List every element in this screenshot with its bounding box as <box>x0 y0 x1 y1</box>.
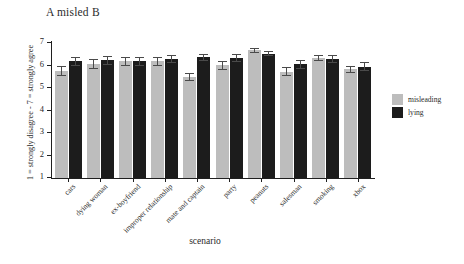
error-bar-cap <box>153 65 162 66</box>
bar-lying <box>230 58 243 178</box>
error-bar <box>189 73 190 81</box>
y-axis-tick-label: 1 <box>40 171 44 182</box>
error-bar <box>171 55 172 63</box>
error-bar-cap <box>264 51 273 52</box>
x-axis-tick <box>261 178 262 182</box>
error-bar-cap <box>346 66 355 67</box>
error-bar-cap <box>103 56 112 57</box>
legend-label-lying: lying <box>408 108 424 117</box>
error-bar-cap <box>135 57 144 58</box>
error-bar-cap <box>250 48 259 49</box>
error-bar-cap <box>153 57 162 58</box>
y-axis-tick: 1 <box>47 177 52 178</box>
error-bar-cap <box>282 67 291 68</box>
y-axis-tick: 4 <box>47 110 52 111</box>
error-bar <box>364 62 365 71</box>
bar-misleading <box>248 50 261 178</box>
error-bar-cap <box>360 70 369 71</box>
error-bar-cap <box>360 62 369 63</box>
error-bar-cap <box>57 66 66 67</box>
x-axis-tick <box>229 178 230 182</box>
bar-misleading <box>183 77 196 178</box>
x-axis-tick-label: party <box>221 182 238 199</box>
x-axis-tick <box>100 178 101 182</box>
y-axis-tick-label: 2 <box>40 149 44 160</box>
bar-misleading <box>344 69 357 178</box>
error-bar <box>61 66 62 76</box>
error-bar-cap <box>185 73 194 74</box>
x-axis-tick <box>197 178 198 182</box>
bar-misleading <box>119 61 132 178</box>
bar-misleading <box>216 65 229 178</box>
error-bar <box>350 66 351 74</box>
error-bar <box>139 57 140 66</box>
x-axis-tick <box>133 178 134 182</box>
bar-lying <box>262 54 275 178</box>
error-bar-cap <box>328 62 337 63</box>
error-bar-cap <box>89 68 98 69</box>
error-bar <box>75 57 76 65</box>
bar-group <box>216 43 243 178</box>
y-axis-tick: 7 <box>47 42 52 43</box>
bar-misleading <box>55 71 68 178</box>
bar-lying <box>358 67 371 178</box>
y-axis-tick-label: 6 <box>40 59 44 70</box>
error-bar-cap <box>328 55 337 56</box>
bar-group <box>280 43 307 178</box>
x-axis-tick <box>68 178 69 182</box>
y-axis-tick: 5 <box>47 87 52 88</box>
x-axis-tick <box>326 178 327 182</box>
error-bar-cap <box>232 61 241 62</box>
bar-lying <box>69 61 82 178</box>
y-axis-tick: 6 <box>47 65 52 66</box>
bar-group <box>119 43 146 178</box>
x-axis-tick-label: peanuts <box>248 182 271 205</box>
bar-misleading <box>312 58 325 178</box>
error-bar-cap <box>71 57 80 58</box>
error-bar-cap <box>103 64 112 65</box>
bar-group <box>183 43 210 178</box>
error-bar <box>222 61 223 70</box>
error-bar-cap <box>218 61 227 62</box>
error-bar <box>268 51 269 56</box>
y-axis-tick: 2 <box>47 155 52 156</box>
bar-chart-figure: A misled B 1 = strongly disagree - 7 = s… <box>0 0 464 264</box>
legend-swatch-lying <box>392 107 403 118</box>
error-bar-cap <box>296 60 305 61</box>
bar-misleading <box>151 61 164 178</box>
error-bar <box>203 54 204 61</box>
x-axis-tick-label: salesman <box>277 182 303 208</box>
x-axis-label: scenario <box>150 236 260 246</box>
y-axis-tick-label: 5 <box>40 81 44 92</box>
x-axis-tick <box>294 178 295 182</box>
bar-lying <box>326 59 339 178</box>
error-bar <box>157 57 158 66</box>
y-axis-tick: 3 <box>47 132 52 133</box>
error-bar <box>286 67 287 76</box>
y-axis-tick-label: 3 <box>40 126 44 137</box>
chart-title: A misled B <box>46 6 100 18</box>
legend-item-misleading: misleading <box>392 93 441 106</box>
x-axis-tick <box>165 178 166 182</box>
error-bar-cap <box>218 69 227 70</box>
bar-misleading <box>280 72 293 178</box>
error-bar-cap <box>167 62 176 63</box>
bar-group <box>55 43 82 178</box>
error-bar <box>254 48 255 53</box>
error-bar-cap <box>314 60 323 61</box>
error-bar-cap <box>250 52 259 53</box>
error-bar <box>332 55 333 63</box>
bar-group <box>248 43 275 178</box>
x-axis-tick-label: dying woman <box>74 182 110 218</box>
error-bar-cap <box>57 75 66 76</box>
bar-lying <box>197 57 210 178</box>
chart-legend: misleading lying <box>392 93 441 119</box>
plot-area: 7654321 <box>52 43 374 178</box>
error-bar-cap <box>121 57 130 58</box>
error-bar-cap <box>199 60 208 61</box>
error-bar-cap <box>282 75 291 76</box>
bar-lying <box>101 60 114 178</box>
error-bar-cap <box>346 72 355 73</box>
legend-item-lying: lying <box>392 106 441 119</box>
legend-label-misleading: misleading <box>408 95 441 104</box>
